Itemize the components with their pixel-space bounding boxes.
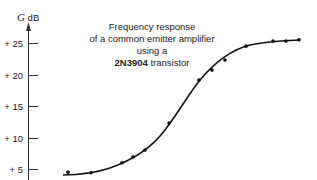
title-line-2: of a common emitter amplifier using a	[82, 33, 222, 57]
y-tick-label: + 15	[1, 101, 23, 112]
y-tick-label: + 20	[1, 70, 23, 81]
y-tick-label: + 25	[1, 38, 23, 49]
y-axis-label: G dB	[17, 11, 39, 23]
data-point	[167, 121, 171, 125]
data-point	[89, 171, 93, 175]
data-point	[131, 155, 135, 159]
data-point	[297, 38, 301, 42]
data-point	[284, 39, 288, 43]
chart-title: Frequency response of a common emitter a…	[82, 21, 222, 69]
data-point	[244, 44, 248, 48]
title-line-3: 2N3904 transistor	[82, 57, 222, 69]
data-point	[120, 161, 124, 165]
data-point	[271, 39, 275, 43]
data-point	[223, 58, 227, 62]
y-tick-label: + 5	[1, 164, 23, 175]
title-line-1: Frequency response	[82, 21, 222, 33]
y-axis-arrow-icon	[26, 22, 31, 31]
data-point	[143, 148, 147, 152]
data-point	[66, 170, 70, 174]
data-point	[197, 78, 201, 82]
y-tick-label: + 10	[1, 133, 23, 144]
y-axis-ticks	[29, 44, 39, 170]
